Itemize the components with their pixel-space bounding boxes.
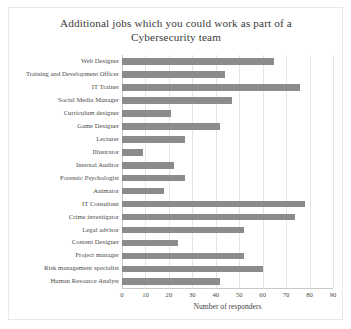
bar-row (122, 262, 333, 276)
category-label: Social Media Manager (3, 96, 119, 104)
bar-row (122, 223, 333, 237)
x-tick-label-30: 30 (189, 291, 196, 299)
bar-row (122, 120, 333, 134)
x-axis-line (122, 288, 333, 289)
x-axis-title: Number of responders (122, 302, 333, 311)
bar-row (122, 249, 333, 263)
category-label: Illustrator (3, 148, 119, 156)
bar (122, 253, 244, 260)
bar (122, 123, 220, 130)
bar (122, 175, 185, 182)
x-tick-label-90: 90 (330, 291, 337, 299)
bar (122, 266, 263, 273)
x-tick-label-10: 10 (142, 291, 149, 299)
bar-row (122, 236, 333, 250)
chart-title: Additional jobs which you could work as … (22, 16, 330, 44)
bar (122, 84, 300, 91)
category-label: Game Designer (3, 122, 119, 130)
plot-area (122, 55, 333, 288)
category-label: Crime investigator (3, 213, 119, 221)
bar (122, 97, 232, 104)
x-tick-label-60: 60 (259, 291, 266, 299)
category-label: Internal Auditor (3, 161, 119, 169)
category-label: Curriculum designer (3, 109, 119, 117)
category-label: IT Consultant (3, 200, 119, 208)
x-tick-label-0: 0 (120, 291, 123, 299)
bar-row (122, 159, 333, 173)
bar-row (122, 275, 333, 289)
x-tick-label-50: 50 (236, 291, 243, 299)
bar (122, 58, 274, 65)
bar (122, 201, 305, 208)
bar-row (122, 133, 333, 147)
category-label: Human Resource Analyst (3, 277, 119, 285)
x-tick-label-20: 20 (166, 291, 173, 299)
category-axis-labels: Web DesignerTraining and Development Off… (0, 55, 119, 288)
bar (122, 214, 295, 221)
bar-row (122, 55, 333, 69)
bar-row (122, 172, 333, 186)
category-label: Risk management specialist (3, 264, 119, 272)
bar-row (122, 68, 333, 82)
category-label: Web Designer (3, 57, 119, 65)
bar (122, 149, 143, 156)
x-tick-label-80: 80 (306, 291, 313, 299)
bar-row (122, 81, 333, 95)
bar (122, 227, 244, 234)
bar (122, 278, 220, 285)
gridline-90 (333, 55, 334, 288)
bar (122, 71, 225, 78)
chart-title-line-1: Additional jobs which you could work as … (22, 16, 330, 30)
x-tick-label-40: 40 (212, 291, 219, 299)
chart-title-line-2: Cybersecurity team (22, 30, 330, 44)
bar-row (122, 107, 333, 121)
bar (122, 162, 174, 169)
bar-row (122, 210, 333, 224)
bar (122, 188, 164, 195)
category-label: Content Designer (3, 238, 119, 246)
bar (122, 110, 171, 117)
category-label: Project manager (3, 251, 119, 259)
bar-row (122, 94, 333, 108)
category-label: IT Trainer (3, 83, 119, 91)
bar (122, 136, 185, 143)
bar-chart-figure: Additional jobs which you could work as … (0, 0, 351, 329)
bar-row (122, 197, 333, 211)
x-tick-label-70: 70 (283, 291, 290, 299)
bar (122, 240, 178, 247)
category-label: Forensic Psychologist (3, 174, 119, 182)
category-label: Legal advisor (3, 226, 119, 234)
category-label: Training and Development Officer (3, 70, 119, 78)
category-label: Animator (3, 187, 119, 195)
category-label: Lecturer (3, 135, 119, 143)
bar-row (122, 184, 333, 198)
bar-row (122, 146, 333, 160)
